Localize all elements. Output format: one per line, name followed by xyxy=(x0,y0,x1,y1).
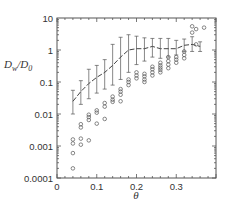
x-tick-label: 0.3 xyxy=(170,181,183,192)
data-point xyxy=(95,111,99,115)
y-tick-label: 0.0001 xyxy=(24,173,53,184)
scatter-points xyxy=(71,25,206,171)
data-point xyxy=(103,105,107,109)
data-point xyxy=(190,31,194,35)
data-point xyxy=(143,80,147,84)
data-point xyxy=(167,63,171,67)
x-tick-label: 0.1 xyxy=(90,181,103,192)
data-point xyxy=(159,71,163,75)
data-point xyxy=(202,26,206,30)
y-axis-label: Dw/D0 xyxy=(3,58,32,73)
data-point xyxy=(71,151,75,155)
chart: 00.10.20.30.00010.0010.010.1110 θ Dw/D0 xyxy=(0,0,225,214)
data-point xyxy=(194,27,198,31)
data-point xyxy=(103,117,107,121)
x-axis-label: θ xyxy=(133,189,139,201)
y-tick-label: 0.1 xyxy=(40,77,53,88)
data-point xyxy=(79,137,83,141)
data-point xyxy=(167,59,171,63)
data-point xyxy=(95,122,99,126)
data-point xyxy=(71,167,75,171)
data-point xyxy=(194,43,198,47)
data-point xyxy=(190,25,194,29)
y-tick-label: 1 xyxy=(48,45,53,56)
data-point xyxy=(71,142,75,146)
data-point xyxy=(87,139,91,143)
y-tick-label: 10 xyxy=(42,13,53,24)
x-tick-label: 0 xyxy=(54,181,59,192)
data-point xyxy=(103,101,107,105)
y-tick-label: 0.01 xyxy=(35,109,54,120)
data-point xyxy=(167,66,171,70)
data-point xyxy=(71,138,75,142)
data-point xyxy=(79,143,83,147)
data-point xyxy=(119,99,123,103)
y-tick-label: 0.001 xyxy=(29,141,53,152)
